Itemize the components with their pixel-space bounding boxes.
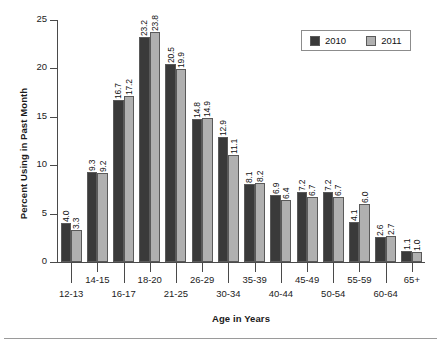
x-axis-tick bbox=[412, 263, 413, 272]
x-axis-label-26-29: 26-29 bbox=[190, 274, 214, 285]
bar-2010-65+: 1.1 bbox=[401, 251, 411, 262]
bar-2011-16-17: 17.2 bbox=[124, 96, 134, 262]
x-axis-label-50-54: 50-54 bbox=[321, 288, 345, 299]
bar-group: 23.223.8 bbox=[139, 20, 160, 262]
y-axis-tick: 25 bbox=[50, 20, 57, 21]
x-axis-tick bbox=[386, 263, 387, 283]
x-axis-label-18-20: 18-20 bbox=[138, 274, 162, 285]
bar-group: 7.26.7 bbox=[297, 20, 318, 262]
bar-2010-21-25: 20.5 bbox=[165, 64, 175, 262]
y-axis-tick-label: 25 bbox=[36, 13, 47, 24]
y-axis-tick: 15 bbox=[50, 117, 57, 118]
legend-item-2011: 2011 bbox=[366, 35, 401, 46]
x-axis-label-55-59: 55-59 bbox=[347, 274, 371, 285]
x-axis-tick bbox=[333, 263, 334, 283]
y-axis-tick-label: 20 bbox=[36, 61, 47, 72]
y-axis-title: Percent Using in Past Month bbox=[18, 54, 29, 254]
y-axis-tick-label: 10 bbox=[36, 158, 47, 169]
bar-series-container: 4.03.39.39.216.717.223.223.820.519.914.8… bbox=[58, 20, 425, 262]
bar-value-label: 7.2 bbox=[323, 180, 333, 191]
bar-group: 9.39.2 bbox=[87, 20, 108, 262]
legend-swatch-2010 bbox=[310, 36, 320, 46]
bar-2010-40-44: 6.9 bbox=[270, 195, 280, 262]
bar-2011-60-64: 2.7 bbox=[386, 236, 396, 262]
bar-value-label: 4.0 bbox=[61, 211, 71, 222]
bar-value-label: 6.7 bbox=[307, 185, 317, 196]
x-axis-tick bbox=[202, 263, 203, 272]
bar-value-label: 7.2 bbox=[297, 180, 307, 191]
bottom-divider bbox=[4, 338, 437, 339]
bar-value-label: 16.7 bbox=[113, 84, 123, 100]
bar-value-label: 2.7 bbox=[386, 224, 396, 235]
bar-2010-60-64: 2.6 bbox=[375, 237, 385, 262]
x-axis-tick bbox=[307, 263, 308, 272]
bar-group: 7.26.7 bbox=[323, 20, 344, 262]
y-axis-tick: 20 bbox=[50, 68, 57, 69]
y-axis-tick: 10 bbox=[50, 165, 57, 166]
x-axis-label-12-13: 12-13 bbox=[59, 288, 83, 299]
x-axis-title: Age in Years bbox=[57, 313, 425, 324]
bar-2010-14-15: 9.3 bbox=[87, 172, 97, 262]
bar-2011-65+: 1.0 bbox=[412, 252, 422, 262]
bar-value-label: 14.9 bbox=[202, 101, 212, 117]
y-axis-tick-label: 5 bbox=[42, 207, 47, 218]
bar-2011-26-29: 14.9 bbox=[202, 118, 212, 262]
bar-2010-35-39: 8.1 bbox=[244, 184, 254, 262]
bar-2010-26-29: 14.8 bbox=[192, 119, 202, 262]
bar-2011-50-54: 6.7 bbox=[333, 197, 343, 262]
bar-2011-35-39: 8.2 bbox=[255, 183, 265, 262]
bar-value-label: 6.9 bbox=[271, 183, 281, 194]
bar-2011-45-49: 6.7 bbox=[307, 197, 317, 262]
legend-label: 2010 bbox=[325, 35, 346, 46]
x-axis-tick bbox=[124, 263, 125, 283]
bar-value-label: 8.1 bbox=[244, 171, 254, 182]
bar-2011-55-59: 6.0 bbox=[359, 204, 369, 262]
bar-2011-14-15: 9.2 bbox=[97, 173, 107, 262]
bar-2011-12-13: 3.3 bbox=[71, 230, 81, 262]
y-axis-tick-label: 15 bbox=[36, 110, 47, 121]
x-axis-label-14-15: 14-15 bbox=[85, 274, 109, 285]
x-axis-label-35-39: 35-39 bbox=[242, 274, 266, 285]
y-axis-tick-label: 0 bbox=[42, 255, 47, 266]
bar-group: 2.62.7 bbox=[375, 20, 396, 262]
x-axis-tick bbox=[71, 263, 72, 283]
bar-group: 14.814.9 bbox=[192, 20, 213, 262]
bar-2011-18-20: 23.8 bbox=[150, 32, 160, 262]
bar-value-label: 19.9 bbox=[176, 53, 186, 69]
bar-group: 6.96.4 bbox=[270, 20, 291, 262]
bar-value-label: 23.2 bbox=[139, 21, 149, 37]
legend-swatch-2011 bbox=[366, 36, 376, 46]
bar-value-label: 2.6 bbox=[375, 225, 385, 236]
bar-chart-figure: Percent Using in Past Month 0510152025 4… bbox=[0, 0, 441, 347]
x-axis-tick bbox=[228, 263, 229, 283]
bar-2011-21-25: 19.9 bbox=[176, 69, 186, 262]
bar-group: 12.911.1 bbox=[218, 20, 239, 262]
x-axis-tick bbox=[359, 263, 360, 272]
bar-group: 4.03.3 bbox=[61, 20, 82, 262]
legend-item-2010: 2010 bbox=[310, 35, 346, 46]
y-axis-tick: 0 bbox=[50, 262, 57, 263]
bar-2010-50-54: 7.2 bbox=[323, 192, 333, 262]
y-axis-tick: 5 bbox=[50, 214, 57, 215]
bar-group: 1.11.0 bbox=[401, 20, 422, 262]
x-axis-label-21-25: 21-25 bbox=[164, 288, 188, 299]
bar-2010-55-59: 4.1 bbox=[349, 222, 359, 262]
bar-value-label: 12.9 bbox=[218, 120, 228, 136]
bar-value-label: 23.8 bbox=[150, 15, 160, 31]
bar-group: 20.519.9 bbox=[165, 20, 186, 262]
bar-value-label: 6.7 bbox=[333, 185, 343, 196]
chart-legend: 20102011 bbox=[301, 30, 411, 51]
x-axis-tick bbox=[97, 263, 98, 272]
bar-value-label: 3.3 bbox=[71, 218, 81, 229]
bar-2010-30-34: 12.9 bbox=[218, 137, 228, 262]
bar-value-label: 8.2 bbox=[255, 170, 265, 181]
x-axis-label-16-17: 16-17 bbox=[111, 288, 135, 299]
legend-label: 2011 bbox=[381, 35, 401, 46]
bar-group: 4.16.0 bbox=[349, 20, 370, 262]
x-axis-label-30-34: 30-34 bbox=[216, 288, 240, 299]
bar-2010-12-13: 4.0 bbox=[61, 223, 71, 262]
bar-value-label: 14.8 bbox=[192, 102, 202, 118]
x-axis-tick bbox=[150, 263, 151, 272]
bar-value-label: 11.1 bbox=[229, 138, 239, 153]
bar-value-label: 4.1 bbox=[349, 210, 359, 221]
